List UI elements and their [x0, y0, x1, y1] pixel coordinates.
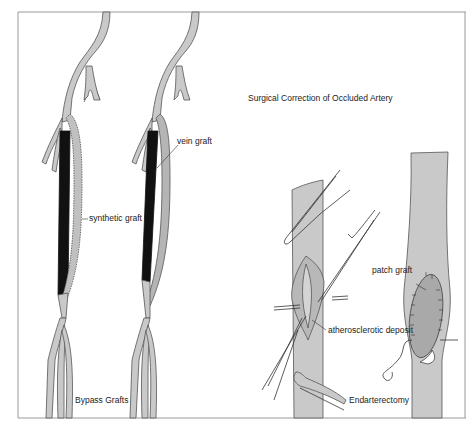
illustration-canvas — [0, 0, 475, 434]
label-vein-graft: vein graft — [177, 137, 212, 146]
figure-frame — [18, 12, 466, 418]
label-synthetic-graft: synthetic graft — [89, 214, 142, 223]
figure-title: Surgical Correction of Occluded Artery — [248, 94, 393, 103]
caption-endarterectomy: Endarterectomy — [349, 396, 409, 405]
caption-bypass-grafts: Bypass Grafts — [75, 396, 128, 405]
label-atherosclerotic-deposit: atherosclerotic deposit — [328, 326, 413, 335]
artery-patch-graft — [383, 152, 458, 418]
label-patch-graft: patch graft — [372, 266, 412, 275]
artery-endarterectomy — [262, 170, 380, 418]
